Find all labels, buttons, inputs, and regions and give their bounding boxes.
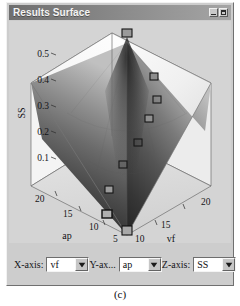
x-axis-select[interactable]: vf [46, 257, 89, 272]
data-point-marker [102, 210, 112, 218]
window-titlebar[interactable]: Results Surface [9, 5, 231, 20]
y-tick-label: 10 [89, 222, 99, 232]
chevron-down-icon[interactable] [148, 258, 161, 271]
y-tick-label: 15 [63, 209, 73, 219]
y-axis-title: ap [62, 230, 71, 241]
z-tick-label: 0.4 [37, 75, 49, 85]
axis-controls-bar: X-axis: vf Y-ax... ap Z-axis [9, 246, 231, 283]
z-axis-label: Z-axis: [162, 259, 190, 270]
x-tick-label: 15 [161, 220, 171, 230]
x-axis-control: X-axis: vf [14, 257, 89, 272]
z-axis-select-value: SS [194, 258, 222, 271]
y-axis-select[interactable]: ap [119, 257, 162, 272]
z-axis-select[interactable]: SS [193, 257, 236, 272]
data-point-marker [145, 115, 153, 122]
minimize-icon[interactable] [209, 8, 218, 17]
z-tick-label: 0.1 [37, 153, 49, 163]
z-tick-label: 0.3 [37, 101, 49, 111]
x-axis-label: X-axis: [14, 259, 43, 270]
chevron-down-icon[interactable] [222, 258, 235, 271]
x-axis-select-value: vf [47, 258, 75, 271]
z-axis-control: Z-axis: SS [162, 257, 236, 272]
surface-plot-area[interactable]: 0.5 0.4 0.3 0.2 0.1 SS 20 [9, 21, 231, 243]
x-tick-label: 20 [201, 197, 211, 207]
z-tick-label: 0.2 [37, 127, 49, 137]
figure-caption: (c) [0, 288, 240, 300]
data-point-marker [105, 186, 113, 193]
surface-plot-canvas: 0.5 0.4 0.3 0.2 0.1 SS 20 [9, 21, 231, 243]
y-axis-select-value: ap [120, 258, 148, 271]
results-surface-window: Results Surface [6, 2, 234, 286]
data-point-marker [122, 29, 132, 37]
figure-panel: Results Surface [0, 0, 240, 306]
titlebar-button-group [209, 8, 231, 17]
y-tick-label: 5 [113, 234, 118, 243]
chevron-down-icon[interactable] [75, 258, 88, 271]
z-axis-title: SS [16, 107, 27, 118]
data-point-marker [150, 73, 158, 80]
y-axis-label: Y-ax... [89, 259, 115, 270]
window-title: Results Surface [9, 7, 90, 18]
y-axis-control: Y-ax... ap [89, 257, 161, 272]
y-tick-label: 20 [35, 194, 45, 204]
maximize-icon[interactable] [219, 8, 228, 17]
x-axis-title: vf [167, 233, 176, 243]
x-tick-label: 10 [135, 234, 145, 243]
z-tick-label: 0.5 [37, 49, 49, 59]
data-point-marker [122, 226, 132, 235]
